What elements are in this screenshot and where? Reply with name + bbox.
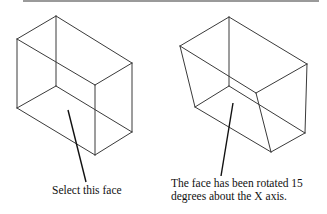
right-caption-line2: degrees about the X axis. (171, 190, 303, 203)
left-caption: Select this face (52, 184, 122, 197)
right-caption: The face has been rotated 15 degrees abo… (171, 177, 303, 203)
right-caption-line1: The face has been rotated 15 (171, 177, 303, 190)
left-leader-line (68, 110, 86, 182)
right-box-wireframe (180, 17, 307, 152)
right-leader-line (221, 103, 233, 176)
